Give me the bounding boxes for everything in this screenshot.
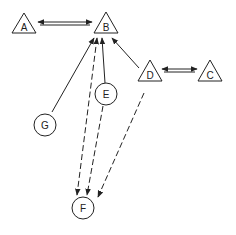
node-e: E	[95, 83, 117, 105]
edge-d-b	[112, 38, 139, 68]
edge-g-b	[52, 38, 94, 112]
node-g: G	[34, 114, 56, 136]
edge-b-f	[77, 38, 97, 195]
node-c: C	[198, 60, 222, 81]
edge-a-b	[38, 22, 92, 25]
network-diagram: A B D C E G F	[0, 0, 236, 235]
node-b: B	[94, 12, 118, 33]
node-b-label: B	[103, 22, 110, 33]
node-f: F	[72, 197, 94, 219]
node-g-label: G	[41, 120, 49, 131]
node-f-label: F	[80, 203, 86, 214]
node-d: D	[138, 60, 162, 81]
edge-d-c	[162, 69, 197, 72]
node-c-label: C	[206, 70, 213, 81]
edge-d-f	[98, 93, 144, 197]
edge-e-f	[87, 106, 103, 195]
edge-e-b	[102, 38, 105, 83]
node-e-label: E	[103, 89, 110, 100]
node-a-label: A	[21, 22, 28, 33]
node-a: A	[12, 13, 36, 33]
node-d-label: D	[146, 70, 153, 81]
